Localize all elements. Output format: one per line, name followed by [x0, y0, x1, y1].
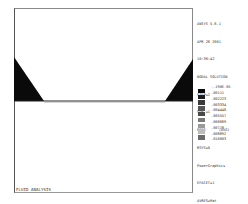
- info-line: EFACET=1: [197, 181, 247, 187]
- legend-value: .006669: [211, 120, 226, 124]
- right-pressure-region: [165, 59, 193, 101]
- left-pressure-region: [14, 57, 44, 101]
- legend-value: -.190E-05: [211, 85, 230, 89]
- contour-legend: -.190E-05.00111.002223.003334.004446.005…: [197, 87, 247, 145]
- info-line: APR 26 2001: [197, 40, 247, 46]
- info-line: PowerGraphics: [197, 164, 247, 170]
- legend-value: .008892: [211, 132, 226, 136]
- info-line: ANSYS 5.6.1: [197, 22, 247, 28]
- info-line: RSYS=0: [197, 146, 247, 152]
- legend-value: .003334: [211, 103, 226, 107]
- info-line: NODAL SOLUTION: [197, 75, 247, 81]
- analysis-title: FLUID ANALYSIS: [16, 187, 51, 192]
- info-line: 10:36:42: [197, 57, 247, 63]
- legend-value: .010003: [211, 137, 226, 141]
- legend-value: .00111: [211, 91, 224, 95]
- legend-value: .00778: [211, 126, 224, 130]
- legend-value: .002223: [211, 97, 226, 101]
- info-line: AVRES=Mat: [197, 199, 247, 204]
- legend-value: .004446: [211, 108, 226, 112]
- legend-row: .010003: [197, 139, 247, 145]
- contour-plot: [14, 8, 193, 193]
- legend-value: .005557: [211, 114, 226, 118]
